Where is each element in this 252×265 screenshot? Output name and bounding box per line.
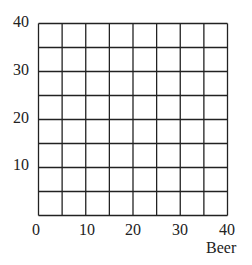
y-tick-30: 30 [13, 62, 29, 78]
x-tick-20: 20 [125, 222, 141, 238]
y-tick-20: 20 [13, 110, 29, 126]
x-tick-30: 30 [172, 222, 188, 238]
x-tick-40: 40 [219, 222, 235, 238]
x-tick-0: 0 [32, 222, 40, 238]
x-tick-10: 10 [79, 222, 95, 238]
y-tick-40: 40 [13, 14, 29, 30]
y-tick-10: 10 [13, 157, 29, 173]
x-axis-label: Beer [206, 240, 236, 256]
blank-grid-chart: 40 30 20 10 0 10 20 30 40 Beer [0, 0, 252, 265]
